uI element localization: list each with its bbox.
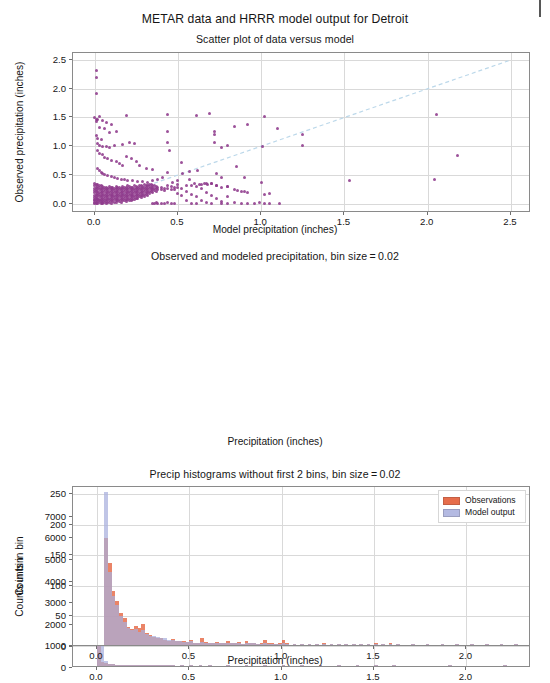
histogram-bar [389,644,393,645]
histogram-bar [337,644,341,645]
y-tick-mark [69,59,72,60]
scatter-point [95,120,98,123]
histogram-bar [367,644,371,645]
histogram-bar [308,644,312,645]
y-tick-label: 0 [36,641,66,652]
histogram-bar [455,644,459,645]
scatter-point [115,130,118,133]
scatter-point [268,202,271,205]
x-tick-mark [177,212,178,215]
x-tick-mark [94,212,95,215]
y-tick-label: 100 [36,579,66,590]
y-tick-mark [69,203,72,204]
scatter-point [130,157,133,160]
histogram-trimmed-ylabel: Counts in bin [14,536,25,595]
scatter-point [243,176,246,179]
legend-entry: Observations [443,495,520,506]
scatter-point [215,184,218,187]
scatter-point [268,192,271,195]
x-tick-mark [373,646,374,649]
scatter-point [185,190,188,193]
figure-page: METAR data and HRRR model output for Det… [0,0,550,683]
y-tick-label: 2.5 [36,53,66,64]
scatter-point [195,185,198,188]
scatter-point [200,199,203,202]
gridline-horizontal [73,555,529,556]
y-tick-label: 250 [36,488,66,499]
scatter-point [215,197,218,200]
figure-suptitle: METAR data and HRRR model output for Det… [0,12,550,26]
scatter-point [190,193,193,196]
scatter-point [188,178,191,181]
y-tick-label: 200 [36,518,66,529]
x-tick-mark [96,646,97,649]
y-tick-label: 150 [36,549,66,560]
histogram-trimmed-title: Precip histograms without first 2 bins, … [0,468,550,480]
x-tick-mark [465,646,466,649]
legend-label: Model output [465,507,515,518]
scatter-point [95,76,98,79]
y-tick-label: 1.5 [36,111,66,122]
legend-entry: Model output [443,507,520,518]
scatter-point [205,191,208,194]
scatter-xlabel: Model precipitation (inches) [0,224,550,235]
histogram-bar [396,644,400,645]
legend-swatch [443,509,460,517]
y-tick-mark [69,145,72,146]
histogram-bar [293,644,297,645]
y-tick-mark [69,493,72,494]
scatter-point [180,187,183,190]
histogram-bar [300,644,304,645]
histogram-bar [285,644,289,645]
histogram-bar [441,644,445,645]
scatter-point [213,133,216,136]
scatter-point [205,182,208,185]
histogram-trimmed-figure: Precip histograms without first 2 bins, … [0,458,550,683]
histogram-trimmed-legend: ObservationsModel output [438,490,526,523]
scatter-point [235,165,238,168]
histogram-bar [322,644,326,645]
histogram-bar [514,644,518,645]
y-tick-label: 1.0 [36,140,66,151]
histogram-trimmed-xlabel: Precipitation (inches) [0,655,550,666]
histogram-bar [374,644,378,645]
scatter-point [145,167,148,170]
y-tick-label: 50 [36,610,66,621]
histogram-bar [352,644,356,645]
scatter-point [95,92,98,95]
scatter-point [210,194,213,197]
gridline-horizontal [73,616,529,617]
histogram-bar [359,644,363,645]
scatter-point [180,194,183,197]
scatter-point [240,190,243,193]
scatter-point [210,182,213,185]
gridline-vertical [374,487,375,645]
histogram-bar [470,644,474,645]
x-tick-mark [427,212,428,215]
scatter-point [263,115,266,118]
y-tick-mark [69,554,72,555]
scatter-ylabel: Observed precipitation (inches) [14,62,25,203]
y-tick-mark [69,615,72,616]
scatter-point [110,159,113,162]
scatter-figure: METAR data and HRRR model output for Det… [0,0,550,240]
y-tick-label: 2.0 [36,82,66,93]
x-tick-mark [343,212,344,215]
histogram-full-xlabel: Precipitation (inches) [0,436,550,447]
y-tick-mark [69,88,72,89]
gridline-horizontal [73,525,529,526]
histogram-full-figure: Observed and modeled precipitation, bin … [0,240,550,458]
gridline-horizontal [73,586,529,587]
histogram-bar [381,644,385,645]
scatter-point [233,125,236,128]
y-tick-mark [69,585,72,586]
gridline-vertical [189,487,190,645]
y-tick-label: 0.5 [36,169,66,180]
legend-label: Observations [465,495,516,506]
histogram-full-title: Observed and modeled precipitation, bin … [0,250,550,262]
histogram-bar [426,644,430,645]
scatter-point [128,141,131,144]
scatter-axes-title: Scatter plot of data versus model [0,33,550,45]
x-tick-mark [281,646,282,649]
scatter-point [220,186,223,189]
